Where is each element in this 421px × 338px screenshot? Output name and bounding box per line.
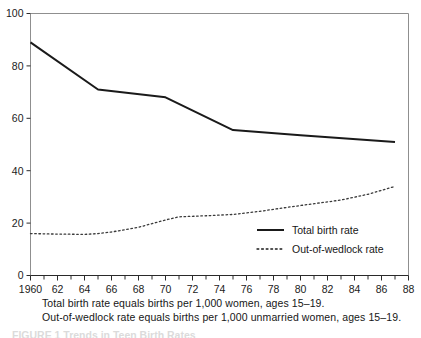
x-axis-tick-label: 62 (52, 283, 64, 295)
x-axis-tick-label: 68 (133, 283, 145, 295)
x-axis-tick-label: 1960 (19, 283, 43, 295)
x-axis-tick-label: 72 (187, 283, 199, 295)
x-axis: 19606264666870727476788082848688 (19, 276, 415, 295)
x-axis-tick-label: 80 (295, 283, 307, 295)
y-axis-tick-label: 60 (12, 112, 24, 124)
x-axis-tick-label: 86 (376, 283, 388, 295)
x-axis-tick-label: 78 (268, 283, 280, 295)
y-axis-tick-label: 100 (6, 7, 24, 19)
line-chart: 020406080100 196062646668707274767880828… (0, 0, 421, 338)
y-axis: 020406080100 (6, 7, 31, 281)
chart-legend: Total birth rateOut-of-wedlock rate (257, 224, 384, 255)
data-series-group (31, 42, 396, 234)
x-axis-tick-label: 76 (241, 283, 253, 295)
figure-caption: Total birth rate equals births per 1,000… (42, 296, 417, 324)
y-axis-tick-label: 40 (12, 165, 24, 177)
caption-line-out-of-wedlock-rate: Out-of-wedlock rate equals births per 1,… (42, 310, 417, 324)
legend-label-1: Total birth rate (292, 224, 359, 236)
figure-number-label: FIGURE 1 Trends in Teen Birth Rates (12, 329, 312, 338)
x-axis-tick-label: 74 (214, 283, 226, 295)
x-axis-tick-label: 64 (79, 283, 91, 295)
legend-label-2: Out-of-wedlock rate (292, 243, 384, 255)
x-axis-tick-label: 82 (322, 283, 334, 295)
x-axis-tick-label: 88 (403, 283, 415, 295)
x-axis-tick-label: 66 (106, 283, 118, 295)
series-line-1 (31, 42, 396, 142)
caption-line-total-birth-rate: Total birth rate equals births per 1,000… (42, 296, 417, 310)
figure-container: 020406080100 196062646668707274767880828… (0, 0, 421, 338)
x-axis-tick-label: 84 (349, 283, 361, 295)
y-axis-tick-label: 80 (12, 60, 24, 72)
y-axis-tick-label: 0 (18, 269, 24, 281)
y-axis-tick-label: 20 (12, 217, 24, 229)
x-axis-tick-label: 70 (160, 283, 172, 295)
plot-frame (31, 14, 409, 276)
